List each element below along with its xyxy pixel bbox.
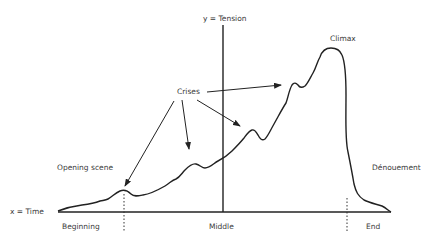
x-axis-label: x = Time (10, 207, 44, 216)
tension-diagram: y = Tension Climax Crises Opening scene … (0, 0, 431, 242)
end-label: End (366, 222, 380, 231)
crises-arrow-second (197, 100, 240, 126)
crises-arrow-first (182, 100, 189, 149)
middle-label: Middle (209, 222, 234, 231)
beginning-label: Beginning (62, 222, 100, 231)
y-axis-label: y = Tension (203, 14, 247, 23)
denouement-label: Dénouement (372, 163, 421, 172)
crises-arrow-opening (125, 101, 174, 186)
opening-scene-label: Opening scene (57, 163, 113, 172)
tension-curve (58, 48, 391, 212)
crises-label: Crises (177, 87, 200, 96)
crises-arrow-third (207, 85, 281, 92)
climax-label: Climax (330, 34, 356, 43)
